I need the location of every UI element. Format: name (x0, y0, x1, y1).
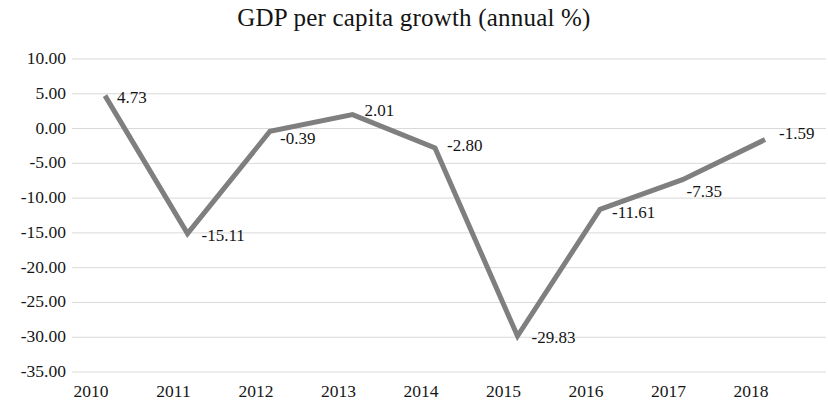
data-point-label: 2.01 (365, 101, 395, 121)
x-axis-tick-label: 2017 (634, 381, 704, 402)
data-point-label: -7.35 (687, 182, 722, 202)
x-axis-tick-label: 2014 (386, 381, 456, 402)
x-axis-tick-label: 2010 (56, 381, 126, 402)
x-axis-tick-label: 2018 (716, 381, 786, 402)
x-axis-tick-label: 2011 (139, 381, 209, 402)
chart-container: GDP per capita growth (annual %) 10.005.… (0, 0, 828, 411)
data-point-label: -0.39 (280, 129, 315, 149)
x-axis-tick-label: 2016 (551, 381, 621, 402)
data-point-label: -2.80 (447, 136, 482, 156)
x-axis: 201020112012201320142015201620172018 (0, 0, 828, 411)
x-axis-tick-label: 2013 (304, 381, 374, 402)
data-point-label: -1.59 (779, 124, 814, 144)
data-point-label: -15.11 (202, 226, 245, 246)
data-point-label: 4.73 (117, 88, 147, 108)
data-point-label: -29.83 (532, 328, 576, 348)
x-axis-tick-label: 2012 (221, 381, 291, 402)
data-point-label: -11.61 (612, 203, 655, 223)
x-axis-tick-label: 2015 (469, 381, 539, 402)
